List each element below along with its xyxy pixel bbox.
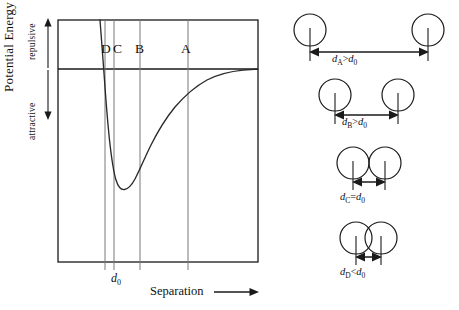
molecule-pair-C bbox=[337, 147, 401, 190]
molecule-pair-D bbox=[340, 222, 397, 265]
y-axis-title: Potential Energy bbox=[2, 2, 15, 92]
plot-frame bbox=[58, 20, 258, 262]
x-axis-title: Separation bbox=[150, 285, 203, 298]
region-label-C: C bbox=[113, 42, 122, 56]
region-label-D: D bbox=[101, 42, 111, 56]
equilibrium-subscript: 0 bbox=[117, 278, 121, 287]
pair-A-distance-label: dA>d0 bbox=[332, 54, 357, 67]
region-label-B: B bbox=[135, 42, 144, 56]
pair-C-distance-label: dC=d0 bbox=[340, 192, 365, 205]
distance-arrow-A bbox=[309, 48, 429, 57]
potential-energy-figure: Potential Energy repulsive attractive D … bbox=[0, 0, 459, 310]
separation-axis-arrow bbox=[214, 288, 259, 296]
repulsive-arrow bbox=[44, 18, 51, 68]
y-axis-repulsive-label: repulsive bbox=[28, 23, 38, 60]
region-label-A: A bbox=[181, 42, 191, 56]
pair-B-reference-subscript: 0 bbox=[363, 121, 367, 130]
pair-A-reference-subscript: 0 bbox=[354, 58, 358, 67]
potential-energy-plot: Potential Energy repulsive attractive D … bbox=[0, 0, 280, 310]
y-axis-attractive-label: attractive bbox=[28, 103, 38, 140]
molecule-pairs-panel: dA>d0 dB>d0 dC=d0 dD<d0 bbox=[280, 0, 459, 310]
molecule-pair-A bbox=[294, 14, 444, 61]
attractive-arrow bbox=[44, 70, 51, 120]
pair-D-distance-label: dD<d0 bbox=[340, 267, 365, 280]
pair-C-reference-subscript: 0 bbox=[361, 196, 365, 205]
potential-energy-curve bbox=[100, 20, 258, 190]
molecule-pairs-svg bbox=[280, 0, 459, 310]
equilibrium-separation-label: d0 bbox=[111, 272, 121, 287]
pair-D-reference-subscript: 0 bbox=[362, 271, 366, 280]
pair-B-distance-label: dB>d0 bbox=[342, 117, 367, 130]
